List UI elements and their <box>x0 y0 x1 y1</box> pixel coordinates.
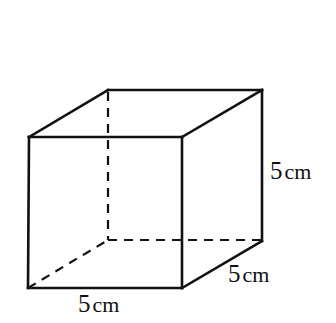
dimension-height-unit: cm <box>285 159 312 184</box>
dimension-depth-value: 5 <box>228 260 241 287</box>
edge-connect-top-right <box>182 90 262 137</box>
edge-front-left <box>28 137 29 288</box>
cube-hidden-edges <box>28 92 262 288</box>
cube-diagram-figure: 5cm 5cm 5cm <box>0 0 336 323</box>
dimension-label-height: 5cm <box>270 158 311 183</box>
dimension-width-unit: cm <box>93 292 120 317</box>
hidden-edge-connect-bottom-left <box>28 240 108 288</box>
cube-visible-edges <box>28 90 262 288</box>
edge-connect-top-left <box>29 90 108 137</box>
dimension-label-width: 5cm <box>78 291 119 316</box>
dimension-depth-unit: cm <box>243 262 270 287</box>
dimension-label-depth: 5cm <box>228 261 269 286</box>
dimension-width-value: 5 <box>78 290 91 317</box>
dimension-height-value: 5 <box>270 157 283 184</box>
